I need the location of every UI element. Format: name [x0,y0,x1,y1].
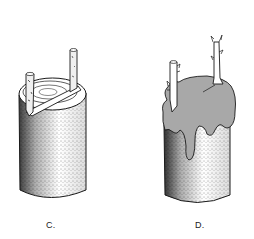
figure-label-c: C. [46,220,55,230]
cleft-graft-illustration [0,0,127,239]
figure-label-d: D. [195,220,204,230]
figure-d: D. [127,0,254,239]
figure-c: C. [0,0,127,239]
waxed-graft-illustration [127,0,254,239]
